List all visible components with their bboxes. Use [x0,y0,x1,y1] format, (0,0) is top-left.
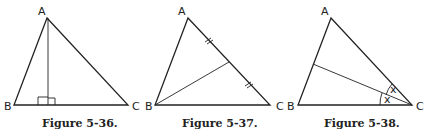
vertex-c-label: C [276,100,284,113]
caption: Figure 5-37. [182,117,258,130]
vertex-b-label: B [145,100,153,113]
vertex-c-label: C [132,100,140,113]
bisector-line [313,64,412,105]
triangle-abc [14,18,128,105]
caption: Figure 5-36. [42,117,118,130]
tick-mark-lower [245,82,253,88]
vertex-b-label: B [4,100,12,113]
right-angle-mark-right [48,98,55,105]
angle-arc-lower [380,93,382,105]
figure-5-37: A B C Figure 5-37. [145,5,284,130]
vertex-a-label: A [38,5,46,18]
triangle-abc [155,18,270,105]
figures-canvas: A B C Figure 5-36. A B C Figure 5-37. x … [0,0,432,137]
figure-5-38: x x A B C Figure 5-38. [287,5,424,130]
vertex-b-label: B [287,100,295,113]
vertex-c-label: C [416,100,424,113]
angle-label-upper: x [390,83,397,96]
figure-5-36: A B C Figure 5-36. [4,5,140,130]
right-angle-mark-left [38,97,48,105]
vertex-a-label: A [321,5,329,18]
caption: Figure 5-38. [324,117,400,130]
vertex-a-label: A [178,5,186,18]
median-line [155,62,229,105]
